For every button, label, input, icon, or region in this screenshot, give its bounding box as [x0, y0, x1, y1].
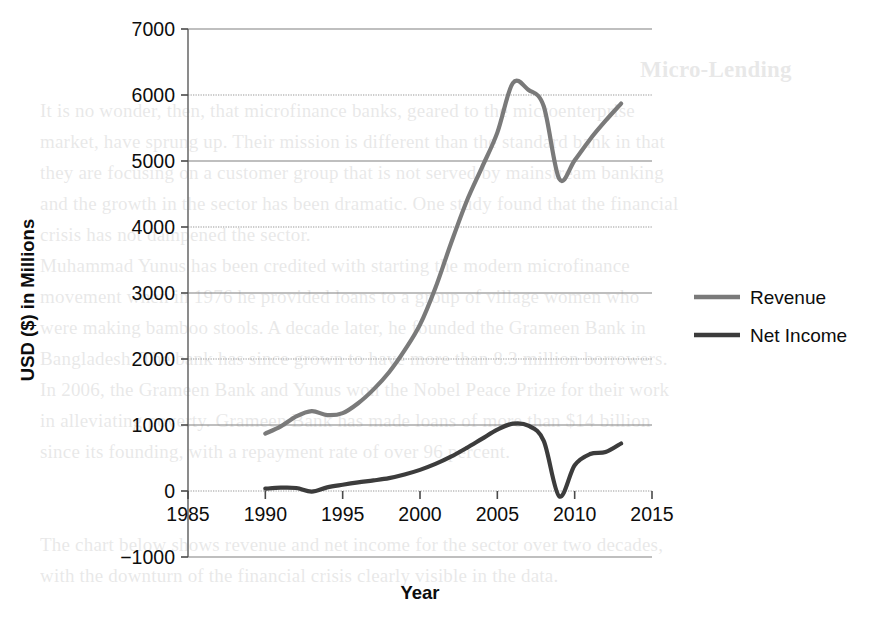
gridlines: [188, 29, 652, 557]
y-axis-title: USD ($) in Millions: [17, 219, 38, 381]
x-tick-label: 1985: [166, 503, 210, 525]
x-tick-label: 2005: [476, 503, 520, 525]
x-tick-label: 2000: [398, 503, 442, 525]
legend: RevenueNet Income: [694, 287, 847, 346]
series-line-revenue: [265, 81, 621, 434]
x-tick-label: 1995: [321, 503, 365, 525]
x-tick-label: 2015: [630, 503, 674, 525]
x-tick-label: 1990: [244, 503, 288, 525]
series-line-net-income: [265, 423, 621, 496]
y-tick-label: −1000: [120, 546, 175, 568]
data-series-group: [265, 81, 621, 497]
y-tick-label: 7000: [132, 18, 176, 40]
x-tick-label: 2010: [553, 503, 597, 525]
y-tick-label: 2000: [132, 348, 176, 370]
legend-label-revenue: Revenue: [750, 287, 826, 308]
legend-label-net-income: Net Income: [750, 325, 847, 346]
y-axis-ticks: [181, 29, 188, 557]
y-tick-label: 0: [164, 480, 175, 502]
y-tick-label: 5000: [132, 150, 176, 172]
x-axis-tick-labels: 1985199019952000200520102015: [166, 503, 674, 525]
chart-container: Micro-Lending It is no wonder, then, tha…: [0, 0, 879, 618]
y-tick-label: 6000: [132, 84, 176, 106]
y-tick-label: 1000: [132, 414, 176, 436]
y-axis-tick-labels: 70006000500040003000200010000−1000: [120, 18, 175, 568]
y-tick-label: 3000: [132, 282, 176, 304]
line-chart: 70006000500040003000200010000−1000 19851…: [0, 0, 879, 618]
x-axis-ticks: [188, 491, 652, 499]
x-axis-title: Year: [400, 582, 439, 603]
y-tick-label: 4000: [132, 216, 176, 238]
